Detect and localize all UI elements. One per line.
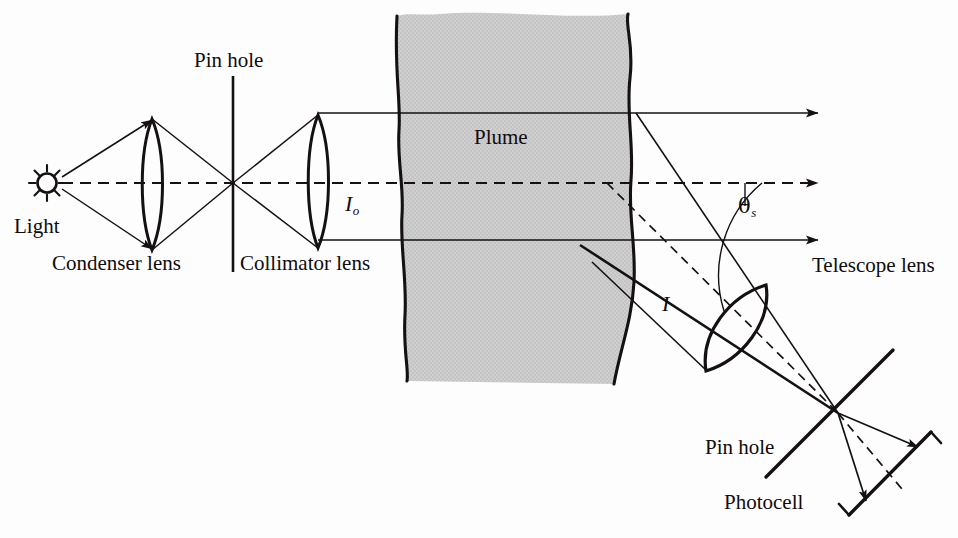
ray-condenser-top-to-focus [152, 119, 233, 183]
label-photocell: Photocell [724, 492, 803, 513]
label-telescope-lens: Telescope lens [812, 255, 935, 276]
figure-canvas: Light Condenser lens Pin hole Collimator… [0, 0, 958, 538]
telescope-lens [705, 285, 767, 371]
label-incident-intensity: Io [345, 193, 359, 217]
ray-source-lower [62, 189, 152, 249]
label-pin-hole-bottom: Pin hole [705, 437, 774, 458]
label-condenser-lens: Condenser lens [52, 253, 181, 274]
photocell-detector [839, 432, 941, 515]
theta-subscript: s [751, 205, 756, 220]
scattered-ray-center-dashed [607, 183, 838, 413]
output-ray-lower [838, 413, 866, 501]
label-plume: Plume [474, 127, 528, 148]
output-ray-upper [838, 413, 918, 447]
source-to-condenser-rays [62, 120, 152, 249]
ray-focus-to-collimator-bottom [233, 183, 318, 248]
ray-source-upper [62, 120, 152, 177]
incident-intensity-subscript: o [353, 203, 360, 218]
collimator-lens [308, 115, 328, 248]
ray-condenser-bottom-to-focus [152, 183, 233, 250]
plume-fill [396, 13, 634, 384]
label-collimator-lens: Collimator lens [240, 253, 370, 274]
condenser-lens [142, 119, 162, 250]
light-source-icon [29, 165, 65, 201]
label-light: Light [14, 216, 60, 237]
plume-region [396, 13, 634, 384]
label-scattering-angle: θs [738, 196, 756, 219]
theta-symbol: θ [738, 194, 751, 218]
ray-focus-to-collimator-top [233, 115, 318, 183]
scattered-ray-upper [636, 113, 838, 413]
incident-intensity-symbol: I [345, 191, 352, 216]
label-scattered-intensity: I [662, 293, 669, 315]
label-pin-hole-top: Pin hole [194, 50, 263, 71]
output-ray-dashed [838, 413, 902, 489]
pin-hole-aperture-bar-2 [766, 350, 893, 477]
